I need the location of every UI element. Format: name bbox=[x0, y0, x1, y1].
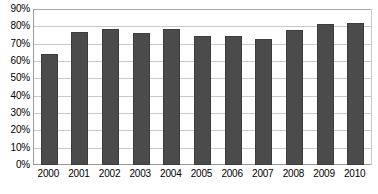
y-tick-label: 90% bbox=[11, 4, 30, 14]
x-tick-label-2010: 2010 bbox=[339, 168, 370, 180]
y-tick-label: 0% bbox=[16, 160, 30, 170]
x-tick-label-2006: 2006 bbox=[217, 168, 248, 180]
x-tick-label-2002: 2002 bbox=[94, 168, 125, 180]
y-tick-label: 70% bbox=[11, 39, 30, 49]
bar-2009 bbox=[317, 24, 334, 165]
y-tick-label: 50% bbox=[11, 73, 30, 83]
x-tick-label-2005: 2005 bbox=[186, 168, 217, 180]
y-tick-label: 60% bbox=[11, 56, 30, 66]
bar-2000 bbox=[41, 54, 58, 165]
bar-2008 bbox=[286, 30, 303, 165]
y-tick-label: 10% bbox=[11, 143, 30, 153]
bar-2007 bbox=[255, 39, 272, 165]
bar-2003 bbox=[133, 33, 150, 165]
bars-group bbox=[34, 9, 371, 165]
x-tick-label-2004: 2004 bbox=[156, 168, 187, 180]
bar-2010 bbox=[347, 23, 364, 165]
bar-2001 bbox=[71, 32, 88, 165]
y-tick-label: 20% bbox=[11, 125, 30, 135]
x-tick-label-2009: 2009 bbox=[309, 168, 340, 180]
y-tick-label: 40% bbox=[11, 91, 30, 101]
y-tick-label: 80% bbox=[11, 21, 30, 31]
bar-chart: 0%10%20%30%40%50%60%70%80%90% 2000200120… bbox=[0, 0, 378, 194]
y-tick-label: 30% bbox=[11, 108, 30, 118]
x-tick-label-2007: 2007 bbox=[247, 168, 278, 180]
x-tick-label-2003: 2003 bbox=[125, 168, 156, 180]
bar-2005 bbox=[194, 36, 211, 165]
x-axis: 2000200120022003200420052006200720082009… bbox=[33, 168, 372, 188]
x-tick-label-2001: 2001 bbox=[64, 168, 95, 180]
x-tick-label-2000: 2000 bbox=[33, 168, 64, 180]
bar-2002 bbox=[102, 29, 119, 165]
y-axis: 0%10%20%30%40%50%60%70%80%90% bbox=[0, 0, 33, 194]
plot-area bbox=[33, 9, 372, 165]
x-tick-label-2008: 2008 bbox=[278, 168, 309, 180]
bar-2006 bbox=[225, 36, 242, 165]
bar-2004 bbox=[163, 29, 180, 165]
